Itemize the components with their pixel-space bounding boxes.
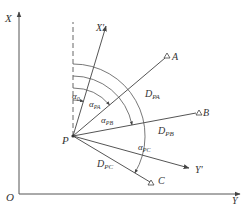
- target-C-triangle-icon: [148, 180, 154, 185]
- distance-PC-label: DPC: [96, 158, 114, 171]
- y-prime-axis: [73, 136, 189, 168]
- target-B-triangle-icon: [196, 110, 202, 115]
- alpha-PA-label: αPA: [89, 99, 101, 110]
- coordinate-diagram: X O Y X' Y' A DPA B DPB C DPC P α0 αPA α…: [0, 0, 246, 213]
- target-A-triangle-icon: [164, 53, 170, 58]
- target-B-label: B: [203, 107, 209, 118]
- line-PB: [73, 113, 196, 136]
- target-A-label: A: [171, 51, 179, 62]
- station-P-label: P: [61, 134, 69, 146]
- distance-PB-label: DPB: [157, 125, 175, 138]
- station-P-point: [71, 134, 74, 137]
- target-C-label: C: [158, 175, 165, 186]
- y-axis-label: Y: [232, 195, 239, 206]
- alpha0-label: α0: [72, 91, 80, 102]
- x-axis-label: X: [4, 12, 13, 24]
- x-prime-label: X': [95, 22, 105, 33]
- y-prime-label: Y': [195, 164, 204, 175]
- alpha-PB-label: αPB: [101, 115, 113, 126]
- diagram-root: X O Y X' Y' A DPA B DPB C DPC P α0 αPA α…: [0, 0, 246, 213]
- arc-alpha-PC: [73, 64, 145, 173]
- origin-label: O: [6, 191, 14, 203]
- distance-PA-label: DPA: [144, 88, 161, 101]
